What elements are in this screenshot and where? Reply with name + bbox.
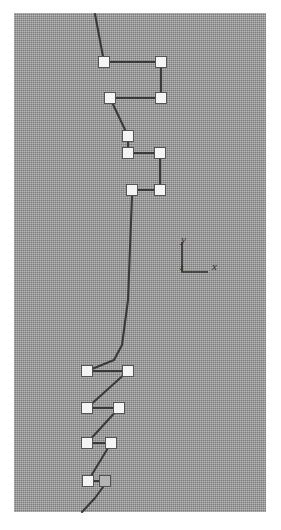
figure-vector-layer: yxz bbox=[0, 0, 281, 530]
node-n8 bbox=[155, 185, 166, 196]
node-n12 bbox=[82, 403, 93, 414]
axis-label-y: y bbox=[180, 233, 186, 245]
node-n3 bbox=[156, 93, 167, 104]
edge-n9-n10 bbox=[87, 190, 132, 371]
coordinate-axis-key: yxz bbox=[179, 233, 217, 272]
node-n2 bbox=[156, 57, 167, 68]
axis-label-origin: z bbox=[179, 262, 184, 272]
node-n11 bbox=[123, 366, 134, 377]
node-n14 bbox=[82, 438, 93, 449]
nodes-group bbox=[82, 57, 167, 487]
node-n5 bbox=[123, 131, 134, 142]
figure-root: yxz bbox=[0, 0, 281, 530]
node-n13 bbox=[114, 403, 125, 414]
node-n1 bbox=[99, 57, 110, 68]
edge-entry_top-n1 bbox=[95, 14, 104, 62]
edges-group bbox=[82, 14, 161, 512]
node-n6 bbox=[123, 148, 134, 159]
node-n7 bbox=[155, 148, 166, 159]
node-n10 bbox=[82, 366, 93, 377]
node-n9 bbox=[127, 185, 138, 196]
node-n16 bbox=[83, 476, 94, 487]
node-n4 bbox=[105, 93, 116, 104]
axis-label-x: x bbox=[211, 260, 217, 272]
node-n15 bbox=[106, 438, 117, 449]
axis-lines bbox=[182, 242, 208, 272]
node-n17 bbox=[100, 476, 111, 487]
